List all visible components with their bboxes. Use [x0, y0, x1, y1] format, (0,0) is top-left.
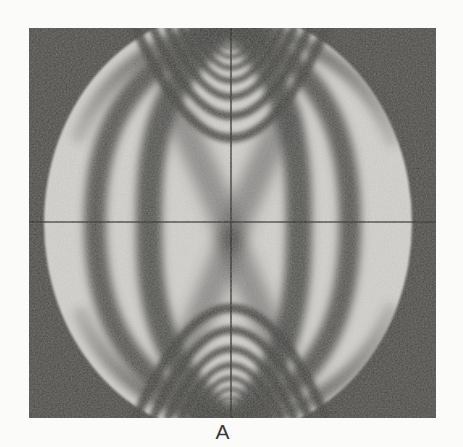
- fringe-photo-svg: [29, 28, 436, 418]
- fringe-photograph: [29, 28, 436, 418]
- page: A: [0, 0, 463, 447]
- film-grain-overlay: [29, 28, 436, 418]
- figure-panel-label: A: [153, 420, 293, 444]
